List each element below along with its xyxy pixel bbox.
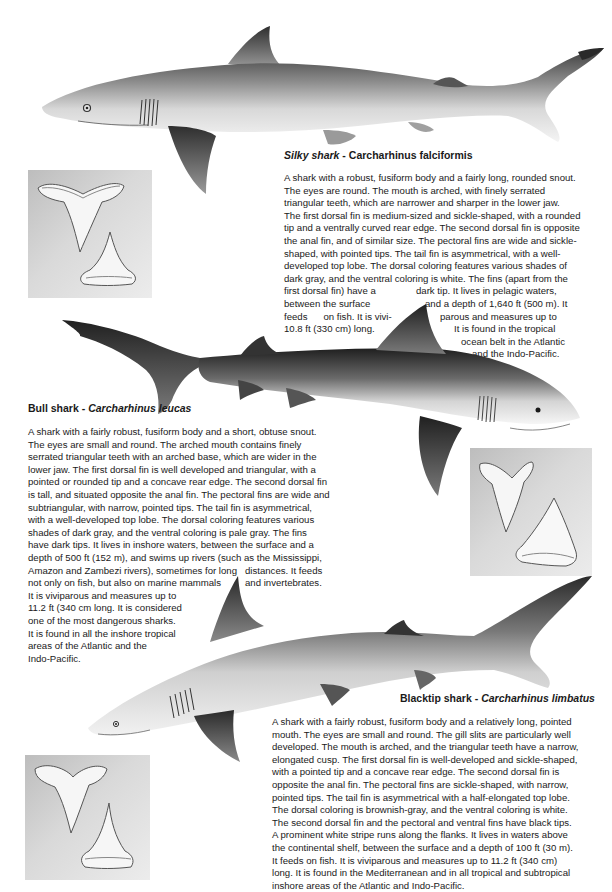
description-line: The second dorsal fin and the pectoral a… [272,817,612,830]
description-line: the anal fin, and of similar size. The p… [284,235,612,248]
description-line: The dorsal coloring is brownish-gray, an… [272,804,612,817]
description-line: It feeds on fish. It is viviparous and m… [272,855,612,868]
description-line: developed top lobe. The dorsal coloring … [284,260,612,273]
description-line: inshore areas of the Atlantic and Indo-P… [272,880,612,892]
description-line: triangular teeth, which are narrower and… [284,197,612,210]
silky-shark-heading: Silky shark - Carcharhinus falciformis [284,149,473,161]
blacktip-shark-description: A shark with a fairly robust, fusiform b… [272,716,612,892]
silky-shark-scientific-name: Carcharhinus falciformis [349,149,473,161]
description-line: mouth. The eyes are small and round. The… [272,729,612,742]
silky-shark-common-name: Silky shark [284,149,339,161]
bull-shark-heading: Bull shark - Carcharhinus leucas [28,402,191,414]
description-line: is tall, and situated opposite the anal … [28,489,448,502]
description-line: opposite the anal fin. The pectoral fins… [272,779,612,792]
description-line: A prominent white stripe runs along the … [272,829,612,842]
description-line: A shark with a fairly robust, fusiform b… [28,426,448,439]
description-line: The first dorsal fin is medium-sized and… [284,210,612,223]
description-line: dark gray, and the ventral coloring is w… [284,273,612,286]
silky-shark-description: A shark with a robust, fusiform body and… [284,172,612,285]
description-line: serrated triangular teeth with an arched… [28,451,448,464]
heading-separator: - [79,402,88,414]
blacktip-shark-common-name: Blacktip shark [400,692,472,704]
bull-shark-teeth-image [470,448,592,576]
description-line: lower jaw. The first dorsal fin is well … [28,464,448,477]
description-line: tip and a ventrally curved rear edge. Th… [284,222,612,235]
description-line: pointed tips. The tail fin is asymmetric… [272,792,612,805]
bull-shark-common-name: Bull shark [28,402,79,414]
description-line: with a well-developed top lobe. The dors… [28,514,448,527]
description-line: have dark tips. It lives in inshore wate… [28,539,448,552]
description-line: The eyes are small and round. The arched… [28,439,448,452]
description-line: developed. The mouth is arched, and the … [272,741,612,754]
description-line: elongated cusp. The first dorsal fin is … [272,754,612,767]
description-line: depth of 500 ft (152 m), and swims up ri… [28,552,448,565]
description-line: A shark with a robust, fusiform body and… [284,172,612,185]
bull-shark-scientific-name: Carcharhinus leucas [88,402,191,414]
description-line: with a pointed tip and a concave rear ed… [272,766,612,779]
description-line: long. It is found in the Mediterranean a… [272,867,612,880]
heading-separator: - [472,692,481,704]
blacktip-shark-scientific-name: Carcharhinus limbatus [481,692,595,704]
blacktip-shark-teeth-image [25,755,150,880]
description-line: shaped, with pointed tips. The tail fin … [284,248,612,261]
description-line: subtriangular, with narrow, pointed tips… [28,502,448,515]
description-line: A shark with a fairly robust, fusiform b… [272,716,612,729]
blacktip-shark-heading: Blacktip shark - Carcharhinus limbatus [400,692,595,704]
description-line: The eyes are round. The mouth is arched,… [284,185,612,198]
silky-shark-teeth-image [28,170,152,298]
description-line: pointed or rounded tip and a concave rea… [28,476,448,489]
description-line: the continental shelf, between the surfa… [272,842,612,855]
description-line: shades of dark gray, and the ventral col… [28,527,448,540]
heading-separator: - [339,149,348,161]
